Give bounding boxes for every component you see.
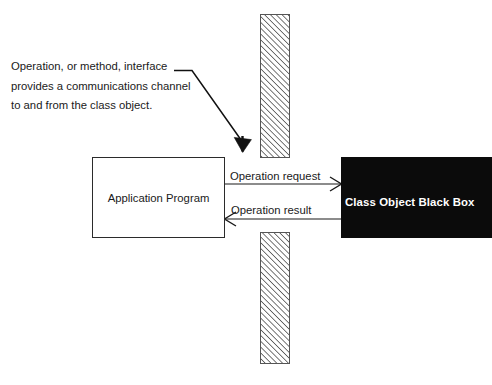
annotation-caption: Operation, or method, interface provides…: [11, 57, 201, 116]
operation-request-label: Operation request: [230, 170, 320, 182]
upper-wall-segment: [261, 15, 290, 158]
node-application-program[interactable]: Application Program: [92, 157, 225, 238]
node-application-program-label: Application Program: [93, 158, 224, 237]
lower-wall-segment: [261, 233, 290, 364]
node-class-object-black-box[interactable]: Class Object Black Box: [341, 157, 492, 238]
diagram-canvas: Operation, or method, interface provides…: [0, 0, 492, 385]
operation-result-label: Operation result: [231, 204, 311, 216]
node-class-object-black-box-label: Class Object Black Box: [345, 196, 474, 208]
